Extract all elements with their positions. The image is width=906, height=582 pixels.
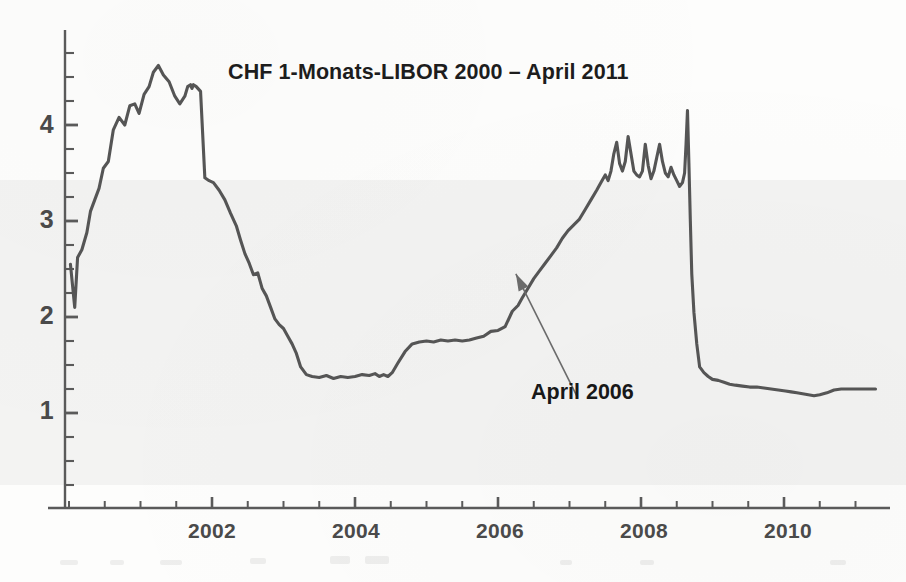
x-tick-label-2002: 2002 xyxy=(167,519,257,543)
x-tick-label-2004: 2004 xyxy=(311,519,401,543)
x-tick-label-2010: 2010 xyxy=(743,519,833,543)
annotation-label-april-2006: April 2006 xyxy=(531,380,634,405)
x-tick-label-2008: 2008 xyxy=(599,519,689,543)
annotation-arrow-group xyxy=(516,274,577,396)
x-axis-ticks xyxy=(69,497,856,508)
y-tick-label-1: 1 xyxy=(18,396,54,425)
chart-title: CHF 1-Monats-LIBOR 2000 – April 2011 xyxy=(228,60,629,85)
y-tick-label-3: 3 xyxy=(18,205,54,234)
libor-line-chart xyxy=(0,0,906,582)
x-tick-label-2006: 2006 xyxy=(455,519,545,543)
chart-page: CHF 1-Monats-LIBOR 2000 – April 2011 Apr… xyxy=(0,0,906,582)
annotation-arrow-line xyxy=(516,274,577,396)
y-tick-label-2: 2 xyxy=(18,301,54,330)
y-tick-label-4: 4 xyxy=(18,110,54,139)
data-line-chf-libor xyxy=(70,65,875,395)
axes xyxy=(48,30,890,508)
data-series-group xyxy=(70,65,875,395)
